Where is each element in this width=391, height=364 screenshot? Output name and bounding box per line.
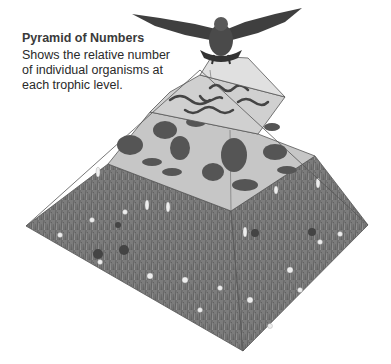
pyramid-diagram <box>0 0 391 364</box>
hawk-icon <box>132 8 302 64</box>
